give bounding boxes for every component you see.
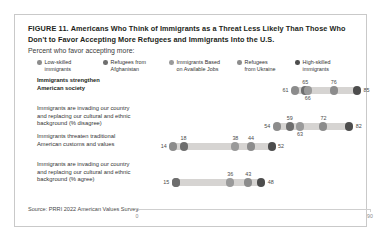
chart-value-label: 85 — [364, 87, 370, 93]
chart-value-label: 66 — [305, 95, 311, 101]
axis-tick-max-label: 90 — [367, 213, 373, 219]
chart-value-label: 52 — [278, 143, 284, 149]
chart-plot-area: Immigrants strengthen American society61… — [15, 77, 368, 205]
chart-value-label: 54 — [264, 123, 270, 129]
figure-title-text: Americans Who Think of Immigrants as a T… — [28, 24, 346, 44]
chart-legend: Low-skilled immigrantsRefugees from Afgh… — [37, 59, 357, 79]
chart-value-label: 14 — [161, 143, 167, 149]
legend-swatch-icon — [103, 60, 108, 65]
chart-value-label: 82 — [356, 123, 362, 129]
chart-data-point[interactable] — [330, 86, 338, 94]
chart-value-label: 72 — [320, 115, 326, 121]
legend-item-4[interactable]: High-skilled immigrants — [295, 59, 330, 72]
chart-row: Immigrants are invading our country and … — [15, 105, 368, 133]
chart-data-point[interactable] — [291, 86, 299, 94]
legend-item-1[interactable]: Refugees from Afghanistan — [103, 59, 146, 72]
chart-value-label: 76 — [331, 79, 337, 85]
chart-value-label: 44 — [248, 135, 254, 141]
legend-swatch-icon — [37, 60, 42, 65]
chart-value-label: 61 — [282, 87, 288, 93]
chart-row: Immigrants are invading our country and … — [15, 161, 368, 189]
legend-item-label: Immigrants Based on Available Jobs — [177, 59, 220, 72]
legend-item-label: Refugees from Ukraine — [245, 59, 276, 72]
legend-item-label: High-skilled immigrants — [303, 59, 331, 72]
chart-row-track-area: 1418384452 — [15, 143, 368, 151]
axis-line — [137, 209, 370, 210]
chart-value-label: 48 — [268, 179, 274, 185]
chart-data-point[interactable] — [353, 86, 361, 94]
legend-item-0[interactable]: Low-skilled immigrants — [37, 59, 71, 72]
chart-value-label: 43 — [245, 171, 251, 177]
chart-row-track-area: 15364348 — [15, 179, 368, 187]
chart-data-point[interactable] — [273, 122, 281, 130]
legend-swatch-icon — [295, 60, 300, 65]
legend-swatch-icon — [237, 60, 242, 65]
chart-data-point[interactable] — [257, 178, 265, 186]
figure-number: FIGURE 11. — [28, 24, 69, 33]
chart-data-point[interactable] — [169, 142, 177, 150]
source-note: Source: PRRI 2022 American Values Survey… — [28, 206, 139, 212]
figure-container: FIGURE 11. Americans Who Think of Immigr… — [14, 14, 367, 227]
chart-data-point[interactable] — [244, 178, 252, 186]
chart-data-point[interactable] — [345, 122, 353, 130]
legend-swatch-icon — [169, 60, 174, 65]
chart-data-point[interactable] — [268, 142, 276, 150]
figure-subtitle: Percent who favor accepting more: — [28, 46, 134, 55]
legend-item-label: Refugees from Afghanistan — [111, 59, 146, 72]
chart-value-label: 18 — [181, 135, 187, 141]
figure-title: FIGURE 11. Americans Who Think of Immigr… — [28, 24, 356, 45]
legend-item-3[interactable]: Refugees from Ukraine — [237, 59, 275, 72]
chart-data-point[interactable] — [247, 142, 255, 150]
chart-data-point[interactable] — [180, 142, 188, 150]
chart-data-point[interactable] — [226, 178, 234, 186]
chart-data-point[interactable] — [304, 86, 312, 94]
chart-row-track-area: 6165667685 — [15, 87, 368, 95]
axis-tick-min-label: 0 — [136, 213, 139, 219]
chart-row-track-area: 5459637282 — [15, 123, 368, 131]
legend-item-2[interactable]: Immigrants Based on Available Jobs — [169, 59, 220, 72]
chart-value-label: 59 — [287, 115, 293, 121]
chart-data-point[interactable] — [172, 178, 180, 186]
chart-value-label: 36 — [227, 171, 233, 177]
chart-value-label: 38 — [232, 135, 238, 141]
chart-data-point[interactable] — [286, 122, 294, 130]
chart-row-range-track — [173, 143, 271, 150]
chart-row: Immigrants threaten traditional American… — [15, 133, 368, 161]
chart-row: Immigrants strengthen American society61… — [15, 77, 368, 105]
chart-value-label: 65 — [302, 79, 308, 85]
chart-data-point[interactable] — [296, 122, 304, 130]
legend-item-label: Low-skilled immigrants — [45, 59, 72, 72]
chart-value-label: 15 — [163, 179, 169, 185]
